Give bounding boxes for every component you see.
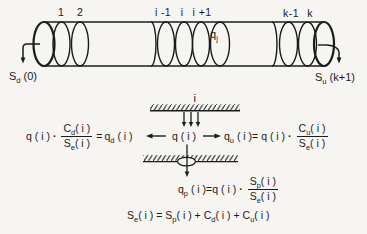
equation-pore: qp ( i )=q ( i )·Sp( i )Se( i ) xyxy=(178,175,280,203)
multiply-dot: · xyxy=(288,130,292,142)
eq-se-term: Se( i ) = xyxy=(127,209,165,221)
multiply-dot: · xyxy=(53,130,57,142)
right-flow-arrow-icon xyxy=(203,134,221,139)
equals-sign: = xyxy=(96,130,102,142)
tube-section-label-k-1: k-1 xyxy=(283,7,299,19)
figure-canvas: 1 2 i -1 i i +1 k-1 k qj Sd (0) Su (k+1)… xyxy=(0,0,367,234)
eq-qp-term: qp ( i )= xyxy=(178,183,212,195)
top-membrane xyxy=(150,104,240,111)
fraction-sp-se: Sp( i )Se( i ) xyxy=(248,175,278,202)
tube-section-label-2: 2 xyxy=(77,6,83,18)
left-flow-arrow-icon xyxy=(146,134,166,139)
tube-section-label-i+1: i +1 xyxy=(193,6,212,18)
eq-cu-term: Cu( i ) xyxy=(243,209,270,221)
tube-section-label-k: k xyxy=(307,7,313,19)
fraction-cd-se: Cd( i )Se( i ) xyxy=(61,122,92,149)
eq-q-term: q ( i ) xyxy=(26,130,50,142)
downstream-outflow-label: Sd (0) xyxy=(9,70,37,82)
tube-section-label-i: i xyxy=(181,6,184,18)
tube-rings xyxy=(53,22,317,66)
tube-inner-flow-label: qj xyxy=(210,28,218,40)
tube-section-label-1: 1 xyxy=(58,6,64,18)
tube-section-label-i-1: i -1 xyxy=(155,6,171,18)
equation-total-balance: Se( i ) = Sp( i ) + Cd( i ) + Cu( i ) xyxy=(127,206,270,224)
eq-q-center-term: q ( i ) xyxy=(172,130,196,142)
equation-center-q: q ( i ) xyxy=(172,121,196,151)
tube-partial-ring-right xyxy=(272,22,277,66)
eq-q-term: q ( i ) xyxy=(212,183,236,195)
upstream-outflow-label: Su (k+1) xyxy=(315,71,355,83)
eq-q-term: q ( i ) xyxy=(261,130,285,142)
equation-downstream: q ( i )·Cd( i )Se( i )=qd ( i ) xyxy=(26,121,133,151)
bottom-membrane xyxy=(143,155,238,166)
eq-qd-term: qd ( i ) xyxy=(105,130,133,142)
eq-qu-term: qu ( i )= xyxy=(224,130,261,142)
detail-section-label: i xyxy=(194,92,197,104)
equation-upstream: qu ( i )= q ( i )·Cu( i )Se( i ) xyxy=(224,121,330,151)
fraction-cu-se: Cu( i )Se( i ) xyxy=(297,122,328,149)
tube-partial-ring-left xyxy=(151,22,156,66)
top-membrane-hatch xyxy=(150,104,240,110)
multiply-dot: · xyxy=(239,183,243,195)
eq-sp-term: Sp( i ) + xyxy=(165,209,203,221)
eq-cd-term: Cd( i ) + xyxy=(204,209,243,221)
